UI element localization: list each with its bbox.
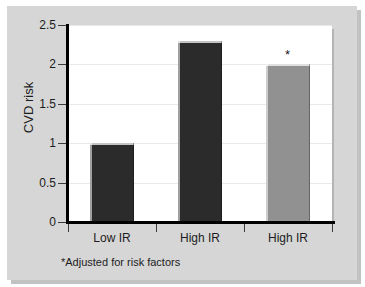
y-tick-mark — [58, 143, 66, 144]
plot-area: * — [68, 25, 332, 222]
bar-highlight-top — [178, 41, 222, 43]
footnote-text: *Adjusted for risk factors — [61, 256, 180, 268]
y-tick-label: 0.5 — [4, 177, 56, 189]
y-tick-mark — [58, 64, 66, 65]
bar-highlight-left — [178, 41, 180, 222]
y-tick-mark — [58, 25, 66, 26]
gridline — [68, 25, 332, 26]
x-tick-mark — [156, 224, 157, 232]
bar-highlight-top — [90, 143, 134, 145]
x-tick-mark — [332, 224, 333, 232]
bar-annotation-asterisk: * — [285, 48, 290, 61]
x-tick-label: High IR — [248, 232, 328, 245]
figure-canvas: * 00.511.522.5 CVD risk Low IRHigh IRHig… — [0, 0, 365, 287]
y-tick-label: 2.5 — [4, 19, 56, 31]
x-tick-mark — [244, 224, 245, 232]
y-tick-mark — [58, 104, 66, 105]
bar-shadow-right — [221, 41, 222, 222]
bar-highlight-left — [266, 64, 268, 222]
x-tick-label: High IR — [160, 232, 240, 245]
bar-1 — [90, 143, 134, 222]
y-tick-label: 0 — [4, 216, 56, 228]
bar-shadow-right — [309, 64, 310, 222]
bar-2 — [178, 41, 222, 222]
y-tick-mark — [58, 183, 66, 184]
bar-3 — [266, 64, 310, 222]
bar-shadow-right — [133, 143, 134, 222]
bar-highlight-left — [90, 143, 92, 222]
x-tick-mark — [68, 224, 69, 232]
x-axis-line — [66, 221, 335, 224]
y-axis-line — [66, 24, 69, 224]
y-tick-mark — [58, 222, 66, 223]
y-axis-label: CVD risk — [21, 68, 36, 148]
bar-highlight-top — [266, 64, 310, 66]
x-tick-label: Low IR — [72, 232, 152, 245]
